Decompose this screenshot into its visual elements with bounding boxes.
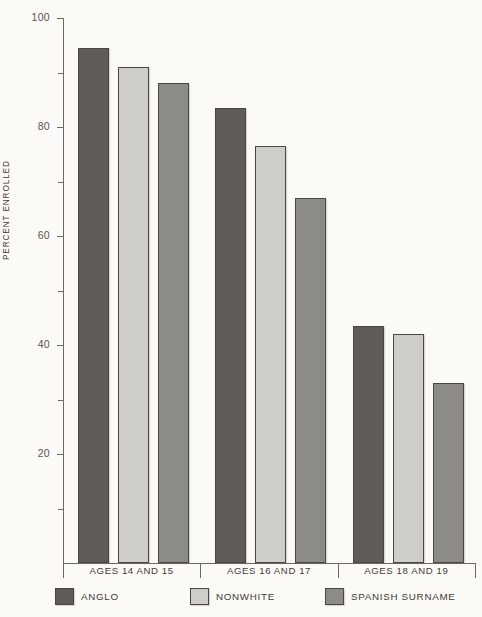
- legend-swatch-icon: [55, 588, 74, 605]
- y-axis-tick-label: 80: [4, 120, 50, 132]
- y-axis-tick-label: 100: [4, 11, 50, 23]
- legend-item: NONWHITE: [190, 588, 275, 605]
- x-axis-line: [63, 563, 475, 564]
- bar-chart: PERCENT ENROLLED 10080604020 AGES 14 AND…: [0, 0, 482, 617]
- x-axis-group-label: AGES 16 AND 17: [200, 565, 337, 576]
- legend-label: NONWHITE: [216, 591, 275, 602]
- legend-swatch-icon: [325, 588, 344, 605]
- x-axis-group-label: AGES 18 AND 19: [338, 565, 475, 576]
- legend-swatch-icon: [190, 588, 209, 605]
- bar: [158, 83, 189, 563]
- y-axis-tick-label: 60: [4, 229, 50, 241]
- y-axis-tick-label: 20: [4, 447, 50, 459]
- bar: [118, 67, 149, 563]
- bar: [353, 326, 384, 563]
- plot-area: [63, 18, 475, 563]
- legend-item: SPANISH SURNAME: [325, 588, 456, 605]
- legend-item: ANGLO: [55, 588, 119, 605]
- y-axis-tick-label: 40: [4, 338, 50, 350]
- x-axis-separator: [475, 563, 476, 578]
- legend-label: SPANISH SURNAME: [351, 591, 456, 602]
- legend-label: ANGLO: [81, 591, 119, 602]
- bar: [255, 146, 286, 563]
- bar: [215, 108, 246, 563]
- bar: [433, 383, 464, 563]
- bar: [78, 48, 109, 563]
- chart-legend: ANGLONONWHITESPANISH SURNAME: [0, 588, 482, 612]
- bar: [295, 198, 326, 563]
- bar: [393, 334, 424, 563]
- x-axis-group-label: AGES 14 AND 15: [63, 565, 200, 576]
